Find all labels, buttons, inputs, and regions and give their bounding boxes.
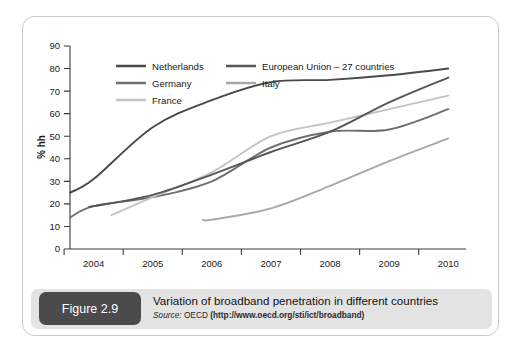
y-tick-label: 0 [55, 243, 60, 254]
y-tick-label: 60 [49, 108, 60, 119]
x-axis: 2004200520062007200820092010 [64, 249, 466, 269]
source-label: Source: [153, 310, 182, 320]
caption-source: Source: OECD (http://www.oecd.org/sti/ic… [153, 310, 484, 320]
y-tick-label: 40 [49, 153, 60, 164]
y-tick-label: 80 [49, 63, 60, 74]
figure-number-badge: Figure 2.9 [39, 292, 141, 325]
y-tick-label: 30 [49, 176, 60, 187]
y-tick-label: 20 [49, 198, 60, 209]
figure-panel: 0102030405060708090 20042005200620072008… [22, 16, 499, 336]
figure-number-label: Figure 2.9 [62, 302, 118, 316]
figure-screenshot: 0102030405060708090 20042005200620072008… [0, 0, 523, 353]
x-tick-label: 2010 [438, 258, 459, 269]
x-tick-label: 2007 [260, 258, 281, 269]
legend-label: Germany [152, 78, 192, 89]
x-tick-label: 2005 [142, 258, 163, 269]
chart-plot-area: 0102030405060708090 20042005200620072008… [23, 17, 498, 279]
x-tick-label: 2009 [379, 258, 400, 269]
legend-label: Netherlands [152, 61, 204, 72]
series-line [111, 96, 448, 216]
legend-label: European Union – 27 countries [262, 61, 394, 72]
caption-band: Figure 2.9 Variation of broadband penetr… [31, 289, 492, 329]
caption-texts: Variation of broadband penetration in di… [153, 294, 484, 320]
x-tick-label: 2008 [319, 258, 340, 269]
source-org: OECD [184, 310, 208, 320]
x-tick-label: 2004 [83, 258, 104, 269]
y-tick-label: 90 [49, 40, 60, 51]
caption-title: Variation of broadband penetration in di… [153, 294, 484, 308]
broadband-line-chart: 0102030405060708090 20042005200620072008… [23, 17, 498, 279]
source-url[interactable]: (http://www.oecd.org/sti/ict/broadband) [210, 310, 364, 320]
y-tick-label: 10 [49, 221, 60, 232]
legend-label: Italy [262, 78, 280, 89]
y-tick-label: 50 [49, 131, 60, 142]
y-axis: 0102030405060708090 [49, 40, 70, 254]
y-tick-label: 70 [49, 86, 60, 97]
series-layer [70, 69, 448, 221]
y-axis-label: % hh [36, 135, 47, 159]
series-line [70, 69, 448, 193]
series-line [203, 138, 448, 220]
legend-label: France [152, 95, 182, 106]
chart-legend: NetherlandsEuropean Union – 27 countries… [116, 61, 394, 106]
series-line [89, 78, 448, 207]
x-tick-label: 2006 [201, 258, 222, 269]
